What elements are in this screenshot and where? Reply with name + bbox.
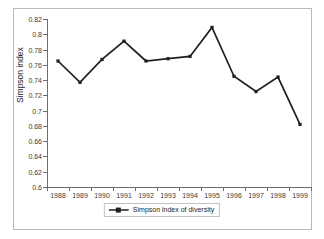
chart-figure: Simpson index 0.60.620.640.660.680.70.72… [0,0,324,239]
series-layer [47,19,313,189]
y-axis-tick-label: 0.72 [28,92,42,99]
x-axis-tick-label: 1990 [94,192,110,200]
y-axis-tick-label: 0.62 [28,168,42,175]
series-point [254,90,257,93]
x-axis-tick-label: 1994 [182,192,198,200]
series-point [210,26,213,29]
chart-legend: Simpson index of diversity [104,203,220,217]
series-point [144,59,147,62]
y-axis-tick-label: 0.78 [28,46,42,53]
y-axis-tick-label: 0.82 [28,16,42,23]
series-point [100,58,103,61]
y-axis-tick-label: 0.7 [32,107,42,114]
y-axis-tick-label: 0.64 [28,153,42,160]
legend-label: Simpson index of diversity [133,206,214,214]
y-axis-tick-label: 0.76 [28,61,42,68]
x-axis-tick-label: 1996 [226,192,242,200]
y-axis-title: Simpson index [16,47,25,103]
x-axis-tick-label: 1999 [292,192,308,200]
x-axis-tick-label: 1988 [50,192,66,200]
series-point [188,55,191,58]
y-axis-tick-label: 0.6 [32,184,42,191]
y-axis-tick-label: 0.68 [28,122,42,129]
y-axis-tick-label: 0.66 [28,138,42,145]
series-point [276,75,279,78]
series-line-simpson-index-of-diversity [58,27,300,124]
x-axis-tick-label: 1993 [160,192,176,200]
x-axis-tick-label: 1991 [116,192,132,200]
y-axis-tick-label: 0.8 [32,31,42,38]
legend-line-marker-icon [109,206,129,214]
x-axis-tick-label: 1997 [248,192,264,200]
x-axis-tick-label: 1992 [138,192,154,200]
series-point [298,123,301,126]
series-point [232,75,235,78]
series-point [166,57,169,60]
y-axis-tick-label: 0.74 [28,77,42,84]
x-axis-tick-label: 1995 [204,192,220,200]
series-point [56,59,59,62]
x-axis-tick-label: 1998 [270,192,286,200]
series-point [78,81,81,84]
series-point [122,40,125,43]
x-axis-tick-label: 1989 [72,192,88,200]
series-markers [56,26,301,126]
